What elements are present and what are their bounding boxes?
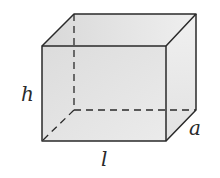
height-label: h: [21, 82, 34, 106]
prism-figure: h l a: [0, 0, 220, 178]
length-label: l: [101, 147, 107, 171]
front-face: [42, 46, 166, 141]
prism-diagram: h l a: [0, 0, 220, 178]
depth-label: a: [189, 116, 201, 140]
